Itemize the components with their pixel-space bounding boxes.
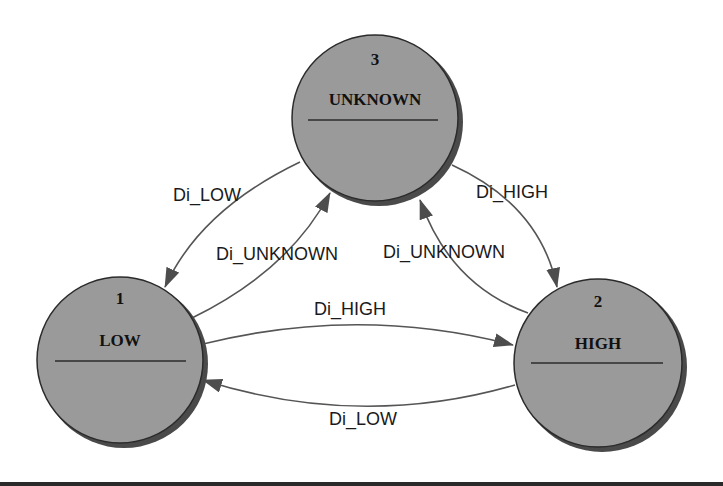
state-low[interactable]: 1 LOW	[37, 277, 208, 448]
transition-unknown-to-low[interactable]	[165, 162, 300, 287]
label-high-to-unknown: Di_UNKNOWN	[383, 242, 505, 263]
state-high[interactable]: 2 HIGH	[514, 279, 687, 452]
state-number: 3	[371, 50, 380, 69]
state-name: UNKNOWN	[329, 90, 422, 109]
label-high-to-low: Di_LOW	[329, 409, 397, 430]
state-name: HIGH	[575, 334, 621, 353]
bottom-border	[0, 482, 723, 486]
state-unknown[interactable]: 3 UNKNOWN	[292, 35, 463, 206]
label-unknown-to-high: Di_HIGH	[476, 182, 548, 203]
transition-labels: Di_LOW Di_UNKNOWN Di_HIGH Di_UNKNOWN Di_…	[173, 182, 548, 430]
transition-high-to-low[interactable]	[203, 380, 515, 406]
state-number: 1	[116, 289, 125, 308]
label-low-to-unknown: Di_UNKNOWN	[216, 244, 338, 265]
transition-low-to-high[interactable]	[203, 325, 513, 345]
state-number: 2	[594, 292, 603, 311]
label-unknown-to-low: Di_LOW	[173, 185, 241, 206]
state-name: LOW	[99, 331, 141, 350]
label-low-to-high: Di_HIGH	[314, 299, 386, 320]
state-diagram: 3 UNKNOWN 1 LOW 2 HIGH Di_LOW Di_UNKNOWN…	[0, 0, 723, 486]
